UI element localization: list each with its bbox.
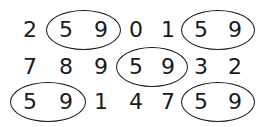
digit-cell: 1 bbox=[158, 18, 178, 42]
digit-cell: 4 bbox=[126, 90, 146, 114]
circled-pair-oval bbox=[181, 10, 255, 50]
digit-cell: 1 bbox=[91, 90, 111, 114]
digit-cell: 0 bbox=[126, 18, 146, 42]
digit-cell: 9 bbox=[91, 55, 111, 79]
circled-pair-oval bbox=[10, 82, 86, 122]
circled-pair-oval bbox=[181, 82, 255, 122]
digit-cell: 7 bbox=[20, 55, 40, 79]
digit-cell: 3 bbox=[191, 55, 211, 79]
digit-cell: 2 bbox=[20, 18, 40, 42]
digit-cell: 7 bbox=[158, 90, 178, 114]
circled-pair-oval bbox=[116, 47, 188, 87]
circled-pair-oval bbox=[46, 10, 121, 50]
digit-cell: 2 bbox=[225, 55, 245, 79]
digit-cell: 8 bbox=[56, 55, 76, 79]
